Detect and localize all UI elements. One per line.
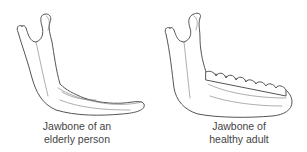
elderly-caption-line1: Jawbone of an: [20, 120, 134, 133]
elderly-jawbone-drawing: [0, 0, 154, 120]
healthy-jawbone-drawing: [154, 0, 307, 120]
healthy-jawbone-figure: Jawbone of healthy adult: [154, 0, 307, 152]
elderly-jawbone-figure: Jawbone of an elderly person: [0, 0, 154, 152]
elderly-caption-line2: elderly person: [20, 133, 134, 146]
healthy-caption: Jawbone of healthy adult: [184, 120, 294, 146]
elderly-caption: Jawbone of an elderly person: [20, 120, 134, 146]
healthy-caption-line2: healthy adult: [184, 133, 294, 146]
healthy-caption-line1: Jawbone of: [184, 120, 294, 133]
